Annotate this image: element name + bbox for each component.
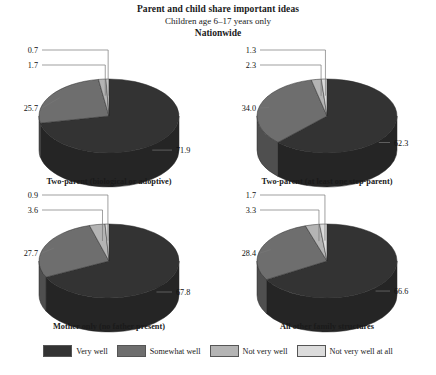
legend-swatch-3 — [297, 345, 326, 357]
legend-label-1: Somewhat well — [150, 347, 201, 356]
pie-chart-1: 62.334.01.32.3 — [218, 40, 436, 190]
page-scope: Nationwide — [0, 27, 436, 39]
pie-chart-panel-3: 66.628.41.73.3 All other family structur… — [218, 185, 436, 335]
legend-label-3: Not very well at all — [330, 347, 393, 356]
page-subtitle: Children age 6–17 years only — [0, 15, 436, 27]
svg-text:34.0: 34.0 — [242, 104, 256, 113]
svg-text:3.3: 3.3 — [246, 206, 256, 215]
svg-text:71.9: 71.9 — [176, 146, 190, 155]
svg-text:25.7: 25.7 — [24, 104, 38, 113]
legend-swatch-1 — [117, 345, 146, 357]
legend-item-2: Not very well — [210, 345, 288, 357]
chart-header: Parent and child share important ideas C… — [0, 3, 436, 39]
svg-text:1.3: 1.3 — [246, 46, 256, 55]
svg-text:66.6: 66.6 — [394, 287, 408, 296]
svg-text:3.6: 3.6 — [28, 206, 38, 215]
chart-page: Parent and child share important ideas C… — [0, 0, 436, 375]
pie-chart-caption-2: Mother only (no father present) — [0, 322, 218, 331]
pie-chart-3: 66.628.41.73.3 — [218, 185, 436, 335]
svg-text:0.9: 0.9 — [28, 191, 38, 200]
svg-text:1.7: 1.7 — [28, 61, 38, 70]
svg-text:1.7: 1.7 — [246, 191, 256, 200]
pie-chart-panel-2: 67.827.70.93.6 Mother only (no father pr… — [0, 185, 218, 335]
svg-text:2.3: 2.3 — [246, 61, 256, 70]
svg-text:28.4: 28.4 — [242, 249, 256, 258]
legend-swatch-2 — [210, 345, 239, 357]
pie-chart-panel-1: 62.334.01.32.3 Two-parent (at least one … — [218, 40, 436, 190]
legend-swatch-0 — [43, 345, 72, 357]
legend-item-1: Somewhat well — [117, 345, 201, 357]
svg-text:27.7: 27.7 — [24, 249, 38, 258]
pie-chart-caption-3: All other family structures — [218, 322, 436, 331]
pie-chart-2: 67.827.70.93.6 — [0, 185, 218, 335]
legend-item-3: Not very well at all — [297, 345, 393, 357]
legend-label-0: Very well — [76, 347, 108, 356]
svg-text:62.3: 62.3 — [394, 139, 408, 148]
pie-chart-grid: 71.925.70.71.7 Two-parent (biological or… — [0, 40, 436, 335]
pie-chart-0: 71.925.70.71.7 — [0, 40, 218, 190]
legend-item-0: Very well — [43, 345, 108, 357]
page-title: Parent and child share important ideas — [0, 3, 436, 15]
pie-chart-panel-0: 71.925.70.71.7 Two-parent (biological or… — [0, 40, 218, 190]
svg-text:0.7: 0.7 — [28, 46, 38, 55]
legend-label-2: Not very well — [243, 347, 288, 356]
chart-legend: Very well Somewhat well Not very well No… — [0, 345, 436, 357]
svg-text:67.8: 67.8 — [176, 288, 190, 297]
